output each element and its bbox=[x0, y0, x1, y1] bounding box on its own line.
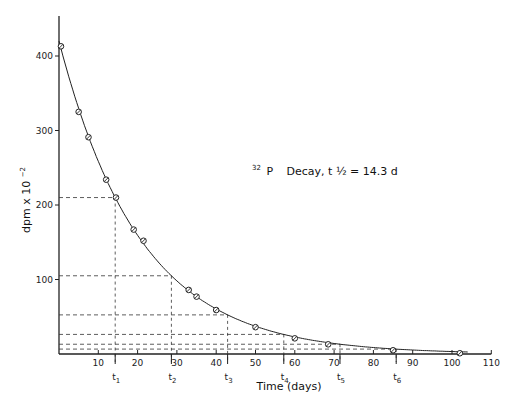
data-point bbox=[457, 350, 463, 356]
annotation-half: ½ bbox=[336, 165, 347, 178]
y-tick-label: 200 bbox=[36, 200, 53, 210]
half-life-label: t6 bbox=[393, 372, 402, 385]
fit-curve bbox=[59, 41, 468, 352]
data-point bbox=[58, 44, 64, 50]
y-tick-label: 100 bbox=[36, 275, 53, 285]
half-life-guides bbox=[59, 198, 396, 364]
data-point bbox=[292, 336, 298, 342]
data-point bbox=[113, 195, 119, 201]
data-point bbox=[213, 307, 219, 313]
data-points bbox=[58, 44, 462, 357]
annotation-rest: = 14.3 d bbox=[350, 165, 398, 178]
x-tick-label: 40 bbox=[210, 358, 222, 368]
x-tick-label: 80 bbox=[368, 358, 380, 368]
x-tick-label: 60 bbox=[289, 358, 301, 368]
half-life-label: t5 bbox=[337, 372, 345, 385]
y-axis-title-main: dpm x 10 bbox=[20, 181, 33, 233]
data-point bbox=[390, 347, 396, 353]
x-tick-label: 100 bbox=[443, 358, 460, 368]
data-point bbox=[103, 177, 109, 183]
x-tick-label: 10 bbox=[93, 358, 105, 368]
data-point bbox=[253, 324, 259, 330]
decay-chart: 102030405060708090100110100200300400t1t2… bbox=[0, 0, 509, 409]
x-tick-label: 110 bbox=[483, 358, 500, 368]
half-life-label: t3 bbox=[225, 372, 233, 385]
data-point bbox=[186, 287, 192, 293]
data-point bbox=[131, 227, 137, 233]
isotope-symbol: P bbox=[266, 165, 273, 178]
isotope-mass: 32 bbox=[252, 164, 261, 172]
half-life-label: t1 bbox=[112, 372, 120, 385]
x-tick-label: 30 bbox=[171, 358, 183, 368]
y-axis-title-exponent: −2 bbox=[19, 167, 27, 177]
data-point bbox=[194, 294, 200, 300]
x-tick-label: 50 bbox=[250, 358, 262, 368]
half-life-label: t2 bbox=[168, 372, 176, 385]
tick-labels: 102030405060708090100110100200300400t1t2… bbox=[36, 51, 500, 385]
fit-curve-group bbox=[59, 41, 468, 352]
x-tick-label: 90 bbox=[407, 358, 419, 368]
axes bbox=[55, 16, 491, 354]
x-tick-label: 20 bbox=[132, 358, 144, 368]
data-point bbox=[76, 109, 82, 115]
data-point bbox=[325, 342, 331, 348]
data-point bbox=[141, 238, 147, 244]
chart-annotation: 32 P Decay, t ½ = 14.3 d bbox=[252, 160, 398, 178]
y-tick-label: 400 bbox=[36, 51, 53, 61]
annotation-text: Decay, t bbox=[287, 165, 334, 178]
data-point bbox=[86, 134, 92, 140]
x-tick-label: 70 bbox=[328, 358, 340, 368]
y-tick-label: 300 bbox=[36, 126, 53, 136]
x-axis-title: Time (days) bbox=[256, 380, 322, 393]
y-axis-title: dpm x 10 −2 bbox=[19, 167, 33, 233]
